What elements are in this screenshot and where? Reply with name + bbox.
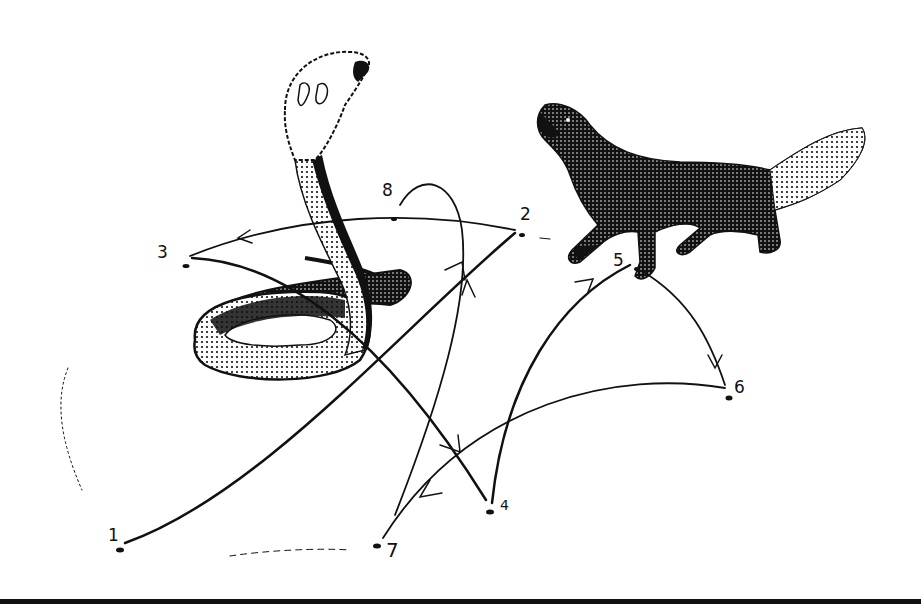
point-7-dot xyxy=(373,544,381,549)
illustration: 1 2 3 4 5 6 7 8 xyxy=(0,0,921,604)
point-3-dot xyxy=(183,264,190,268)
point-2-dot xyxy=(519,233,525,237)
path-segment-1-2 xyxy=(125,233,515,543)
point-label-3: 3 xyxy=(157,244,168,261)
point-6-dot xyxy=(726,396,733,401)
point-label-8: 8 xyxy=(382,182,393,199)
path-segment-5-6 xyxy=(642,271,725,385)
point-4-dot xyxy=(486,510,494,515)
point-label-5: 5 xyxy=(613,252,624,269)
mongoose-illustration xyxy=(538,104,865,279)
point-label-7: 7 xyxy=(386,540,399,560)
point-1-dot xyxy=(116,548,124,553)
point-label-2: 2 xyxy=(520,206,531,223)
point-label-1: 1 xyxy=(108,527,119,544)
movement-path xyxy=(61,184,725,556)
path-segment-4-5 xyxy=(492,265,630,503)
bottom-border xyxy=(0,599,921,604)
path-segment-7-8 xyxy=(395,184,463,515)
diagram-canvas xyxy=(0,0,921,604)
cobra-illustration xyxy=(194,52,411,380)
point-label-4: 4 xyxy=(500,498,509,512)
point-label-6: 6 xyxy=(734,379,745,396)
point-8-dot xyxy=(391,217,397,221)
point-5-dot xyxy=(634,267,640,271)
